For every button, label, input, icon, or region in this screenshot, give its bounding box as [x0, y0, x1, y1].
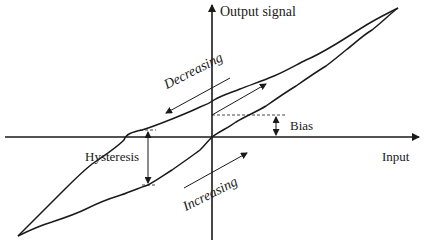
hysteresis-dimension	[140, 130, 156, 185]
input-axis-label: Input	[382, 150, 409, 163]
hysteresis-diagram: Output signal Input Bias Hysteresis Decr…	[0, 0, 424, 246]
bias-label: Bias	[290, 119, 313, 132]
bias-dimension	[212, 115, 285, 135]
hysteresis-label: Hysteresis	[85, 150, 139, 163]
output-axis-label: Output signal	[220, 5, 296, 19]
diagram-graphics	[0, 0, 424, 246]
